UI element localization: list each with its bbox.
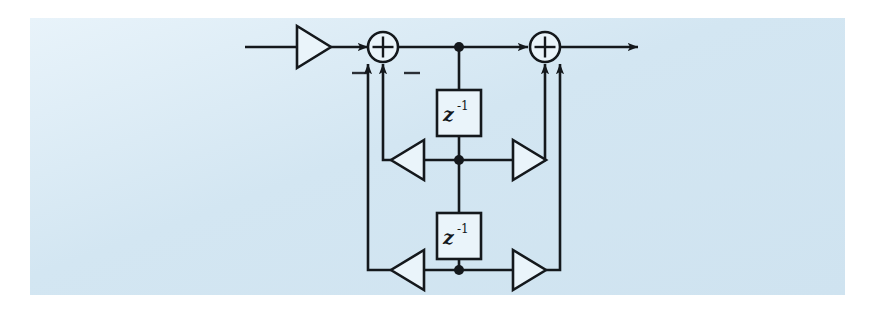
unit-delay-lower-label: z xyxy=(442,226,455,248)
feedback-path-upper xyxy=(383,64,391,160)
feedforward-path-upper xyxy=(545,64,546,160)
unit-delay-upper-exponent: -1 xyxy=(457,99,469,113)
unit-delay-upper-label: z xyxy=(442,103,455,125)
feedback-path-lower xyxy=(368,64,391,270)
signal-flow-diagram: z -1 z -1 xyxy=(0,0,877,317)
unit-delay-lower-exponent: -1 xyxy=(457,222,469,236)
feedforward-gain-upper xyxy=(513,140,546,180)
feedforward-gain-lower xyxy=(513,250,546,290)
feedback-gain-upper xyxy=(391,140,424,180)
figure-canvas: z -1 z -1 xyxy=(0,0,877,317)
input-gain-triangle xyxy=(297,26,331,68)
feedforward-path-lower xyxy=(546,64,560,270)
feedback-gain-lower xyxy=(391,250,424,290)
